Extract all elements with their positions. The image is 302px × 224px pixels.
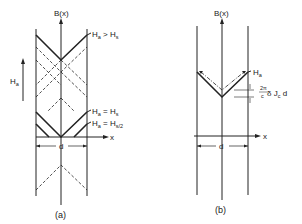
label-b-ha: Ha: [253, 68, 263, 78]
field-arrow-icon: [21, 58, 25, 64]
panel-b-x-label: x: [263, 132, 267, 141]
x-axis-b-arrow-icon: [255, 134, 261, 138]
field-label: Ha: [10, 77, 20, 87]
svg-text:c: c: [261, 93, 264, 99]
diagram-canvas: B(x) x d Ha Ha > Hs Ha = Hs Ha = Hs/2 (a…: [0, 0, 302, 224]
panel-a-x-label: x: [110, 133, 114, 142]
panel-b: [194, 18, 261, 200]
b-axis-arrow-icon: [59, 18, 63, 24]
panel-b-y-label: B(x): [214, 9, 229, 18]
panel-a-caption: (a): [55, 210, 66, 220]
x-axis-arrow-icon: [103, 135, 109, 139]
curve-ha-half-left: [36, 124, 49, 137]
panel-b-width-label: d: [219, 142, 223, 151]
panel-b-caption: (b): [215, 205, 226, 215]
label-ha-eq-hs: Ha = Hs: [92, 107, 119, 117]
delta-expression: 2π c δ Jc d: [259, 85, 287, 99]
svg-text:δ Jc d: δ Jc d: [267, 89, 287, 99]
svg-text:2π: 2π: [260, 85, 267, 91]
b-axis-b-arrow-icon: [220, 18, 224, 24]
label-ha-eq-hs-half: Ha = Hs/2: [92, 119, 123, 129]
label-ha-gt-hs: Ha > Hs: [92, 30, 119, 40]
panel-a-width-label: d: [59, 142, 63, 151]
panel-a-y-label: B(x): [54, 9, 69, 18]
curve-ha-half-right: [74, 124, 87, 137]
